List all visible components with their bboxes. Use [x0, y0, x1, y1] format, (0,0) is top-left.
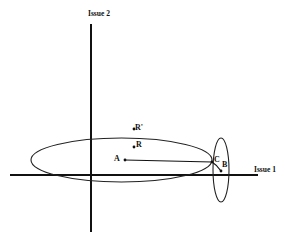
point-r [133, 146, 136, 149]
label-r: R [136, 140, 142, 149]
point-c [211, 161, 214, 164]
segment-a-c [125, 160, 212, 162]
point-b [220, 170, 223, 173]
label-a: A [114, 154, 120, 163]
issue-2-label: Issue 2 [88, 9, 110, 18]
spatial-model-diagram: Issue 2 Issue 1 A R R' C B [0, 0, 285, 245]
label-b: B [222, 160, 228, 169]
issue-1-label: Issue 1 [254, 165, 276, 174]
point-a [124, 159, 127, 162]
label-r-prime: R' [135, 123, 143, 132]
label-c: C [214, 155, 220, 164]
